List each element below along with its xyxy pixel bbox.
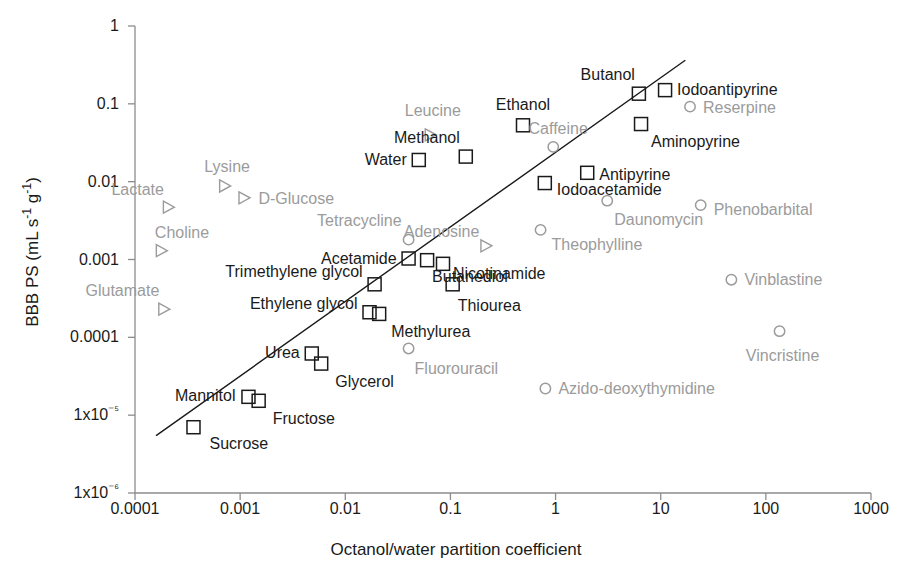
x-tick-label: 0.001 (220, 500, 260, 518)
point-label: Azido-deoxythymidine (558, 380, 715, 398)
point-label: Fluorouracil (415, 360, 499, 378)
point-label: Lactate (111, 181, 163, 199)
x-tick-label: 0.01 (330, 500, 361, 518)
marker-square (581, 166, 594, 179)
y-tick-label: 0.1 (39, 95, 119, 113)
point-label: Urea (265, 344, 300, 362)
marker-square (459, 150, 472, 163)
marker-circle (726, 275, 736, 285)
marker-triangle (239, 192, 250, 204)
point-label: Ethylene glycol (250, 295, 358, 313)
marker-square (252, 394, 265, 407)
point-label: Adenosine (404, 223, 480, 241)
marker-square (659, 84, 672, 97)
point-label: Vinblastine (744, 271, 822, 289)
marker-triangle (159, 303, 170, 315)
point-label: Sucrose (209, 435, 268, 453)
marker-square (315, 357, 328, 370)
marker-circle (695, 200, 705, 210)
point-label: Antipyrine (599, 166, 670, 184)
y-tick-label: 0.0001 (39, 328, 119, 346)
y-axis-title-text: BBB PS (mL s (23, 219, 42, 327)
point-label: Water (365, 151, 407, 169)
marker-triangle (220, 180, 231, 192)
point-label: Ethanol (496, 96, 550, 114)
x-tick-label: 10 (652, 500, 670, 518)
y-tick-label: 1 (39, 17, 119, 35)
marker-square (305, 347, 318, 360)
point-label: Nicotinamide (453, 265, 545, 283)
marker-circle (685, 101, 695, 111)
y-axis-exponent-1: -1 (20, 208, 34, 219)
marker-square (187, 421, 200, 434)
marker-square (635, 118, 648, 131)
y-tick-label: 1x10⁻⁶ (39, 484, 119, 502)
point-label: Fructose (273, 410, 335, 428)
marker-square (242, 390, 255, 403)
y-tick-exponent: ⁻⁵ (108, 404, 119, 416)
chart-figure: BBB PS (mL s-1 g-1) Octanol/water partit… (0, 0, 912, 577)
marker-triangle (156, 245, 167, 257)
y-tick-label: 0.01 (39, 173, 119, 191)
marker-circle (540, 383, 550, 393)
x-tick-label: 100 (752, 500, 779, 518)
point-label: Reserpine (703, 99, 776, 117)
point-label: Methanol (394, 129, 460, 147)
point-label: Choline (155, 224, 209, 242)
y-tick-exponent: ⁻⁶ (108, 482, 119, 494)
point-label: Tetracycline (317, 212, 401, 230)
point-label: Caffeine (529, 120, 588, 138)
marker-triangle (481, 240, 492, 252)
y-tick-label: 0.001 (39, 251, 119, 269)
point-label: Daunomycin (614, 211, 703, 229)
point-label: D-Glucose (258, 190, 334, 208)
point-label: Glycerol (335, 373, 394, 391)
point-label: Vincristine (746, 347, 820, 365)
point-label: Thiourea (458, 297, 521, 315)
point-label: Lysine (204, 158, 250, 176)
point-label: Aminopyrine (651, 133, 740, 151)
x-tick-label: 1000 (853, 500, 889, 518)
marker-square (421, 254, 434, 267)
marker-circle (535, 225, 545, 235)
point-label: Methylurea (391, 323, 470, 341)
y-axis-exponent-2: -1 (20, 183, 34, 194)
marker-square (538, 177, 551, 190)
point-label: Acetamide (321, 250, 397, 268)
x-axis-title: Octanol/water partition coefficient (0, 540, 912, 560)
y-axis-title-mid: g (23, 194, 42, 208)
point-label: Iodoantipyrine (677, 81, 778, 99)
x-tick-label: 0.1 (439, 500, 461, 518)
point-label: Mannitol (175, 387, 235, 405)
point-label: Phenobarbital (714, 201, 813, 219)
marker-square (412, 153, 425, 166)
y-tick-label: 1x10⁻⁵ (39, 406, 119, 424)
x-tick-label: 1 (551, 500, 560, 518)
point-label: Glutamate (85, 282, 159, 300)
marker-circle (774, 326, 784, 336)
marker-square (516, 119, 529, 132)
point-label: Theophylline (552, 236, 643, 254)
point-label: Leucine (405, 102, 461, 120)
marker-triangle (163, 201, 174, 213)
x-tick-label: 0.0001 (111, 500, 160, 518)
marker-circle (548, 142, 558, 152)
point-label: Butanol (581, 66, 635, 84)
marker-circle (403, 343, 413, 353)
